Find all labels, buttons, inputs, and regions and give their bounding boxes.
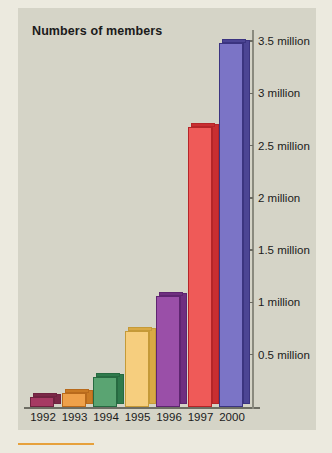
- bar-side-face: [149, 328, 156, 404]
- bar-2000: [219, 43, 243, 407]
- y-axis-tick-label: 2 million: [258, 192, 300, 204]
- bar-1993: [62, 393, 86, 407]
- x-axis-label-2000: 2000: [216, 411, 248, 423]
- bar-side-face: [212, 124, 219, 404]
- x-axis-label-1993: 1993: [59, 411, 91, 423]
- bar-1992: [30, 397, 54, 407]
- chart-panel: Numbers of members 0.5 million1 million1…: [18, 8, 316, 430]
- bar-side-face: [117, 374, 124, 404]
- bar-1996: [156, 296, 180, 407]
- bar-1994: [93, 377, 117, 407]
- bar-side-face: [243, 40, 250, 404]
- bar-front-face: [219, 43, 243, 407]
- y-axis-tick-label: 2.5 million: [258, 140, 310, 152]
- page-background: Numbers of members 0.5 million1 million1…: [0, 0, 332, 453]
- y-axis-tick-label: 0.5 million: [258, 349, 310, 361]
- y-axis-tick-label: 1 million: [258, 296, 300, 308]
- bar-front-face: [188, 127, 212, 407]
- x-axis-label-1997: 1997: [185, 411, 217, 423]
- y-axis-tick-label: 3.5 million: [258, 35, 310, 47]
- x-axis-label-1996: 1996: [153, 411, 185, 423]
- x-axis-label-1994: 1994: [90, 411, 122, 423]
- accent-rule: [18, 443, 94, 445]
- bar-1997: [188, 127, 212, 407]
- bar-front-face: [62, 393, 86, 407]
- x-axis-line: [24, 407, 260, 409]
- chart-title: Numbers of members: [32, 24, 162, 38]
- x-axis-label-1995: 1995: [122, 411, 154, 423]
- bar-1995: [125, 331, 149, 407]
- bar-front-face: [30, 397, 54, 407]
- bar-front-face: [93, 377, 117, 407]
- paper-edge: [0, 430, 332, 453]
- y-axis-line: [252, 30, 254, 409]
- bar-front-face: [156, 296, 180, 407]
- bar-front-face: [125, 331, 149, 407]
- y-axis-tick-label: 3 million: [258, 87, 300, 99]
- y-axis-tick-label: 1.5 million: [258, 244, 310, 256]
- chart-panel-inner: Numbers of members 0.5 million1 million1…: [18, 8, 316, 430]
- x-axis-label-1992: 1992: [27, 411, 59, 423]
- bar-side-face: [180, 293, 187, 404]
